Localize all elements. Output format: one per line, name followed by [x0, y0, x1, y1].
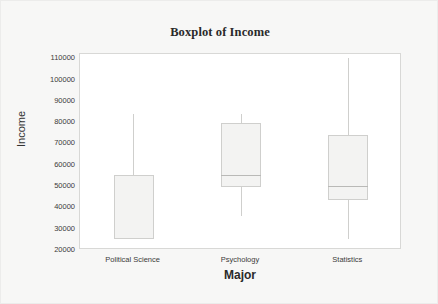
median-line — [328, 186, 368, 187]
box-iqr — [221, 123, 261, 187]
y-tick-label: 110000 — [29, 53, 75, 62]
y-tick-label: 90000 — [29, 95, 75, 104]
whisker-lower — [348, 200, 349, 239]
y-tick-label: 20000 — [29, 245, 75, 254]
box-iqr — [328, 135, 368, 200]
x-tick-label: Psychology — [221, 255, 259, 264]
y-tick-label: 30000 — [29, 223, 75, 232]
chart-title: Boxplot of Income — [1, 25, 438, 40]
x-tick-label: Political Science — [105, 255, 160, 264]
whisker-upper — [348, 58, 349, 135]
whisker-upper — [133, 114, 134, 176]
x-axis-title: Major — [79, 268, 401, 282]
box-group — [114, 54, 154, 248]
box-group — [221, 54, 261, 248]
median-line — [221, 175, 261, 176]
boxplot-figure: Boxplot of Income Income 110000100000900… — [0, 0, 438, 304]
y-tick-label: 40000 — [29, 202, 75, 211]
plot-area — [79, 53, 401, 249]
y-axis-tick-labels: 1100001000009000080000700006000050000400… — [27, 53, 75, 249]
box-group — [328, 54, 368, 248]
y-tick-label: 100000 — [29, 74, 75, 83]
x-axis-tick-labels: Political SciencePsychologyStatistics — [79, 255, 401, 267]
whisker-lower — [241, 187, 242, 216]
y-axis-title: Income — [15, 89, 27, 169]
x-tick-label: Statistics — [332, 255, 362, 264]
y-tick-label: 80000 — [29, 117, 75, 126]
y-tick-label: 60000 — [29, 159, 75, 168]
whisker-upper — [241, 114, 242, 124]
box-iqr — [114, 175, 154, 239]
y-tick-label: 50000 — [29, 181, 75, 190]
y-tick-label: 70000 — [29, 138, 75, 147]
